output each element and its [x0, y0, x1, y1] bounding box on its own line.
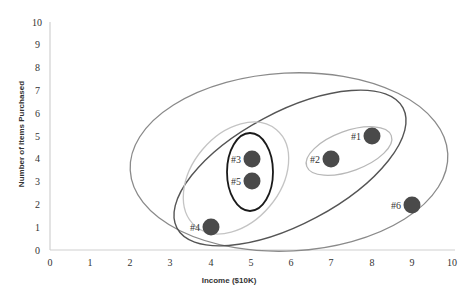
- cluster-1-2-3-4-5-ellipse: [151, 58, 430, 277]
- y-axis-ticks: 0 1 2 3 4 5 6 7 8 9 10: [32, 17, 42, 256]
- point-label-2: #2: [310, 154, 320, 165]
- x-tick: 2: [128, 257, 133, 268]
- x-tick: 9: [410, 257, 415, 268]
- y-tick: 2: [35, 199, 40, 210]
- x-tick: 0: [48, 257, 53, 268]
- x-tick: 5: [249, 257, 254, 268]
- y-tick: 1: [35, 222, 40, 233]
- x-tick: 1: [88, 257, 93, 268]
- x-axis-title: Income ($10K): [202, 276, 257, 285]
- cluster-3-5-ellipse: [227, 133, 273, 211]
- data-point-3: [244, 151, 261, 168]
- data-point-5: [244, 173, 261, 190]
- x-axis-ticks: 0 1 2 3 4 5 6 7 8 9 10: [48, 257, 458, 268]
- point-label-5: #5: [231, 176, 241, 187]
- x-tick: 7: [329, 257, 334, 268]
- data-point-2: [323, 151, 340, 168]
- x-tick: 6: [289, 257, 294, 268]
- point-label-6: #6: [391, 200, 401, 211]
- y-tick: 3: [35, 176, 40, 187]
- y-tick: 7: [35, 85, 40, 96]
- y-tick: 6: [35, 108, 40, 119]
- data-point-6: [404, 197, 421, 214]
- cluster-1-2-ellipse: [300, 117, 398, 185]
- x-tick: 3: [168, 257, 173, 268]
- data-point-4: [203, 219, 220, 236]
- y-tick: 10: [32, 17, 42, 28]
- dendrogram-cluster-scatter-chart: 0 1 2 3 4 5 6 7 8 9 10 0 1 2 3 4 5 6 7 8…: [0, 0, 475, 294]
- x-tick: 4: [209, 257, 214, 268]
- y-tick: 5: [35, 131, 40, 142]
- y-tick: 9: [35, 39, 40, 50]
- point-label-4: #4: [190, 222, 200, 233]
- x-tick: 8: [370, 257, 375, 268]
- y-axis-title: Number of Items Purchased: [17, 81, 26, 187]
- point-label-1: #1: [351, 131, 361, 142]
- x-tick: 10: [447, 257, 457, 268]
- point-label-3: #3: [231, 154, 241, 165]
- y-tick: 4: [35, 153, 40, 164]
- y-tick: 0: [35, 245, 40, 256]
- y-tick: 8: [35, 62, 40, 73]
- data-point-1: [364, 128, 381, 145]
